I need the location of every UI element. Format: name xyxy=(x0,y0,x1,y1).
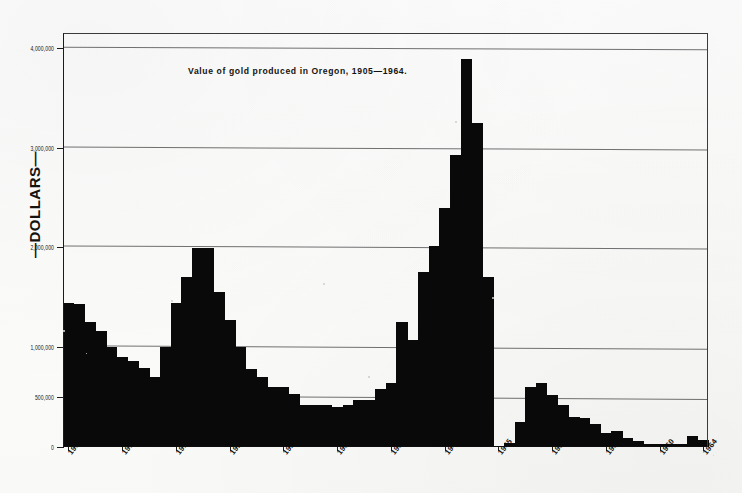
bar xyxy=(633,441,644,447)
bar xyxy=(687,436,698,447)
bar xyxy=(343,405,354,447)
bar xyxy=(601,433,612,447)
bar xyxy=(418,272,429,447)
bar xyxy=(353,400,364,447)
bar xyxy=(214,292,225,447)
bar xyxy=(697,440,708,447)
bar xyxy=(665,444,676,447)
y-tick-label: 1,000,000 xyxy=(30,343,54,351)
bar xyxy=(590,424,601,447)
bar xyxy=(547,395,558,447)
y-tick-label: 2,000,000 xyxy=(30,244,54,252)
bar xyxy=(192,248,203,447)
y-tick-mark xyxy=(57,48,64,49)
bar xyxy=(63,303,74,447)
bar xyxy=(515,422,526,447)
bar xyxy=(106,347,117,447)
x-tick-mark xyxy=(703,447,704,451)
bars-group xyxy=(63,33,708,447)
x-tick-mark xyxy=(337,447,338,451)
y-tick-mark xyxy=(57,397,64,398)
bar xyxy=(676,444,687,447)
bar xyxy=(579,418,590,447)
x-tick-mark xyxy=(498,447,499,451)
bar xyxy=(644,444,655,447)
x-tick-mark xyxy=(552,447,553,451)
bar xyxy=(472,123,483,447)
x-tick-mark xyxy=(391,447,392,451)
x-tick-mark xyxy=(660,447,661,451)
chart-title: Value of gold produced in Oregon, 1905—1… xyxy=(188,66,407,76)
y-tick-label: 3,000,000 xyxy=(30,144,54,152)
x-tick-mark xyxy=(230,447,231,451)
bar xyxy=(504,443,515,447)
bar xyxy=(171,303,182,447)
bar xyxy=(396,322,407,447)
bar xyxy=(332,407,343,447)
x-tick-mark xyxy=(445,447,446,451)
bar xyxy=(267,387,278,447)
gold-production-chart-figure: —DOLLARS— Value of gold produced in Oreg… xyxy=(0,0,742,493)
bar xyxy=(611,431,622,447)
bar xyxy=(386,383,397,447)
bar xyxy=(310,405,321,447)
bar xyxy=(622,438,633,447)
y-tick-label: 4,000,000 xyxy=(30,44,54,52)
bar xyxy=(203,248,214,447)
y-tick-label: 500,000 xyxy=(35,393,54,401)
bar xyxy=(278,387,289,447)
x-tick-mark xyxy=(283,447,284,451)
y-tick-mark xyxy=(57,247,64,248)
bar xyxy=(289,394,300,447)
x-tick-mark xyxy=(68,447,69,451)
scan-speck xyxy=(713,455,714,456)
bar xyxy=(160,347,171,447)
bar xyxy=(74,304,85,447)
bar xyxy=(257,377,268,447)
bar xyxy=(482,277,493,447)
bar xyxy=(429,246,440,448)
bar xyxy=(235,347,246,447)
bar xyxy=(536,383,547,447)
y-tick-mark xyxy=(57,347,64,348)
bar xyxy=(321,405,332,447)
plot-area xyxy=(63,33,708,447)
bar xyxy=(450,155,461,447)
bar xyxy=(300,405,311,447)
bar xyxy=(117,357,128,447)
bar xyxy=(224,320,235,447)
bar xyxy=(138,368,149,447)
bar xyxy=(439,208,450,447)
bar xyxy=(461,59,472,447)
y-tick-mark xyxy=(57,148,64,149)
bar xyxy=(85,322,96,447)
bar xyxy=(364,400,375,447)
bar xyxy=(95,331,106,447)
x-tick-mark xyxy=(176,447,177,451)
bar xyxy=(149,377,160,447)
x-tick-mark xyxy=(606,447,607,451)
bar xyxy=(558,405,569,447)
y-tick-mark xyxy=(57,447,64,448)
bar xyxy=(407,340,418,447)
bar xyxy=(181,277,192,447)
bar xyxy=(525,387,536,447)
bar xyxy=(375,389,386,447)
bar xyxy=(128,361,139,447)
x-tick-mark xyxy=(122,447,123,451)
bar xyxy=(246,369,257,447)
y-tick-label: 0 xyxy=(51,443,54,451)
bar xyxy=(568,417,579,447)
